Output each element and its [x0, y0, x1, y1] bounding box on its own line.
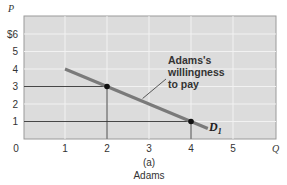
x-tick-label: 5 [230, 143, 236, 154]
annotation-text: willingness [167, 66, 225, 78]
x-axis-title: Q [272, 143, 280, 154]
y-axis-ticks: $654321 [7, 29, 19, 128]
y-tick-label: 2 [12, 99, 18, 110]
x-tick-label: 2 [104, 143, 110, 154]
x-tick-label: 1 [62, 143, 68, 154]
y-tick-label: 1 [12, 116, 18, 127]
y-tick-label: 3 [12, 81, 18, 92]
x-tick-label: 0 [13, 143, 19, 154]
y-tick-label: 4 [12, 64, 18, 75]
annotation-text: Adams's [168, 54, 212, 66]
x-tick-label: 3 [146, 143, 152, 154]
data-point [104, 84, 110, 90]
x-axis-ticks: 012345 [13, 143, 236, 154]
data-point [188, 119, 194, 125]
x-tick-label: 4 [188, 143, 194, 154]
y-tick-label: 5 [12, 46, 18, 57]
chart-caption: Adams [133, 170, 164, 181]
annotation-text: to pay [168, 78, 199, 90]
panel-label: (a) [143, 157, 155, 168]
y-axis-title: P [7, 3, 14, 14]
demand-chart: $654321 012345 P Q Adams'swillingnessto … [0, 0, 287, 185]
y-tick-label: $6 [7, 29, 19, 40]
